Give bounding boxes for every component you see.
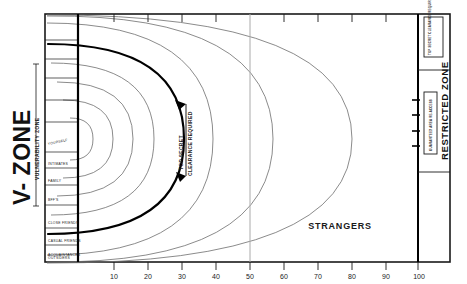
top-secret-box [424,17,443,57]
top-secret-box-label: TOP SECRET CLEARANCE REQUIRED [428,0,432,55]
x-tick-10: 10 [110,273,118,280]
zone-label-yourself: YOURSELF [47,138,68,146]
curve-close-friends-highlight [48,44,184,234]
zone-label-family: FAMILY [48,179,62,183]
zone-labels: YOURSELF INTIMATES FAMILY BFF'S CLOSE FR… [47,138,81,257]
v-zone-diagram: YOURSELF INTIMATES FAMILY BFF'S CLOSE FR… [0,0,467,284]
guaranteed-access-label: GUARANTEED AREA RE-ACCESS [429,99,433,151]
curve-intimates [63,100,113,178]
callout-arrow-upper [175,100,186,110]
zone-curves [47,15,352,263]
x-tick-40: 40 [212,273,220,280]
x-tick-30: 30 [178,273,186,280]
zone-label-intimates: INTIMATES [48,162,69,166]
x-axis-ticks [114,14,418,270]
x-tick-20: 20 [144,273,152,280]
curve-family [57,82,133,196]
callout-line1: TOP SECRET [178,135,184,170]
page-title: V- ZONE [9,109,35,205]
curve-acquaintances [47,16,273,262]
y-axis-label: VULNERABILITY ZONE [34,117,40,180]
zone-label-casual-friends: CASUAL FRIENDS [48,239,81,243]
zone-label-close-friends: CLOSE FRIENDS [48,221,79,225]
x-axis-tick-labels: 10 20 30 40 50 60 70 80 90 100 [110,273,425,280]
restricted-zone-label: RESTRICTED ZONE [439,61,450,160]
callout-line2: CLEARANCE REQUIRED [187,111,193,176]
strangers-label: STRANGERS [308,221,372,231]
curve-yourself [70,118,93,160]
x-tick-60: 60 [280,273,288,280]
x-tick-50: 50 [246,273,254,280]
x-tick-70: 70 [314,273,322,280]
x-tick-100: 100 [413,273,425,280]
figure-canvas: YOURSELF INTIMATES FAMILY BFF'S CLOSE FR… [0,0,467,284]
x-tick-80: 80 [348,273,356,280]
x-tick-90: 90 [382,273,390,280]
zone-label-bffs: BFF'S [48,198,59,202]
zone-label-outsiders: OUTSIDERS [48,256,71,260]
chart-frame [45,14,450,262]
